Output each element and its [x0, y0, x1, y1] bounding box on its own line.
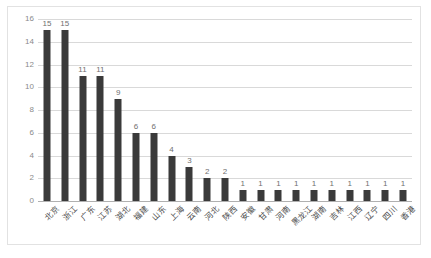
bar-value-label: 11	[78, 66, 86, 74]
bar[interactable]	[132, 133, 139, 201]
x-axis-category-label: 江西	[346, 205, 363, 222]
bar[interactable]	[275, 190, 282, 201]
x-axis-category-label: 香港	[400, 205, 417, 222]
bar-value-label: 1	[347, 180, 351, 188]
x-axis-category-label: 河南	[275, 205, 292, 222]
x-axis-category-label: 山东	[150, 205, 167, 222]
bar-slot: 1	[376, 19, 394, 201]
y-axis-tick-label: 0	[30, 197, 34, 205]
bar[interactable]	[364, 190, 371, 201]
bar-value-label: 1	[312, 180, 316, 188]
bar-value-label: 2	[223, 168, 227, 176]
x-axis-category-label: 上海	[168, 205, 185, 222]
x-axis-category-label: 福建	[133, 205, 150, 222]
bar[interactable]	[115, 99, 122, 201]
bar-value-label: 1	[383, 180, 387, 188]
bar-slot: 6	[127, 19, 145, 201]
bar-value-label: 1	[330, 180, 334, 188]
x-axis-labels: 北京浙江广东江苏湖北福建山东上海云南河北陕西安徽甘肃河南黑龙江湖南吉林江西辽宁四…	[38, 203, 412, 247]
bar-value-label: 1	[276, 180, 280, 188]
plot-area: 0246810121416 1515111196643221111111111	[38, 19, 412, 201]
y-axis-tick-label: 4	[30, 152, 34, 160]
bar-value-label: 1	[365, 180, 369, 188]
bar[interactable]	[97, 76, 104, 201]
bar-series: 1515111196643221111111111	[38, 19, 412, 201]
bar-value-label: 11	[96, 66, 104, 74]
bar-value-label: 2	[205, 168, 209, 176]
bar-slot: 11	[74, 19, 92, 201]
x-axis-line	[38, 201, 412, 202]
bar[interactable]	[168, 156, 175, 202]
bar-value-label: 9	[116, 89, 120, 97]
bar[interactable]	[382, 190, 389, 201]
x-axis-category-label: 湖南	[311, 205, 328, 222]
y-axis-tick-label: 8	[30, 106, 34, 114]
bar[interactable]	[293, 190, 300, 201]
bar-value-label: 15	[42, 20, 51, 28]
x-axis-category-label: 广东	[79, 205, 96, 222]
y-axis-tick-label: 14	[25, 38, 34, 46]
bar[interactable]	[204, 178, 211, 201]
bar[interactable]	[79, 76, 86, 201]
bar-value-label: 1	[241, 180, 245, 188]
bar[interactable]	[61, 30, 68, 201]
y-axis-tick-label: 6	[30, 129, 34, 137]
bar-slot: 1	[252, 19, 270, 201]
x-axis-category-label: 河北	[204, 205, 221, 222]
bar-slot: 11	[91, 19, 109, 201]
chart-container: 0246810121416 1515111196643221111111111 …	[7, 6, 421, 245]
bar[interactable]	[328, 190, 335, 201]
bar-slot: 15	[56, 19, 74, 201]
y-axis-tick-label: 2	[30, 174, 34, 182]
bar-value-label: 1	[258, 180, 262, 188]
bar-slot: 9	[109, 19, 127, 201]
x-axis-category-label: 四川	[382, 205, 399, 222]
x-axis-category-label: 北京	[44, 205, 61, 222]
bar-slot: 1	[234, 19, 252, 201]
bar-slot: 4	[163, 19, 181, 201]
bar-slot: 1	[341, 19, 359, 201]
bar[interactable]	[311, 190, 318, 201]
bar[interactable]	[239, 190, 246, 201]
bar-value-label: 1	[401, 180, 405, 188]
bar[interactable]	[186, 167, 193, 201]
bar[interactable]	[346, 190, 353, 201]
bar[interactable]	[43, 30, 50, 201]
x-axis-category-label: 云南	[186, 205, 203, 222]
bar[interactable]	[150, 133, 157, 201]
bar-slot: 1	[287, 19, 305, 201]
bar-slot: 1	[305, 19, 323, 201]
x-axis-category-label: 陕西	[222, 205, 239, 222]
bar-value-label: 4	[169, 146, 173, 154]
bar-value-label: 1	[294, 180, 298, 188]
x-axis-category-label: 浙江	[61, 205, 78, 222]
bar-value-label: 3	[187, 157, 191, 165]
y-axis-tick-label: 12	[25, 61, 34, 69]
bar-slot: 1	[394, 19, 412, 201]
bar-value-label: 6	[134, 123, 138, 131]
bar-value-label: 6	[152, 123, 156, 131]
x-axis-category-label: 湖北	[115, 205, 132, 222]
x-axis-category-label: 江苏	[97, 205, 114, 222]
bar-slot: 15	[38, 19, 56, 201]
bar-slot: 3	[180, 19, 198, 201]
bar[interactable]	[221, 178, 228, 201]
bar-slot: 6	[145, 19, 163, 201]
bar-slot: 2	[216, 19, 234, 201]
x-axis-category-label: 吉林	[329, 205, 346, 222]
x-axis-category-label: 甘肃	[257, 205, 274, 222]
bar-value-label: 15	[60, 20, 69, 28]
y-axis-tick-label: 10	[25, 83, 34, 91]
bar-slot: 1	[270, 19, 288, 201]
bar-slot: 1	[359, 19, 377, 201]
y-axis-tick-label: 16	[25, 15, 34, 23]
x-axis-category-label: 安徽	[239, 205, 256, 222]
bar[interactable]	[400, 190, 407, 201]
bar-slot: 1	[323, 19, 341, 201]
bar-slot: 2	[198, 19, 216, 201]
bar[interactable]	[257, 190, 264, 201]
x-axis-category-label: 辽宁	[364, 205, 381, 222]
